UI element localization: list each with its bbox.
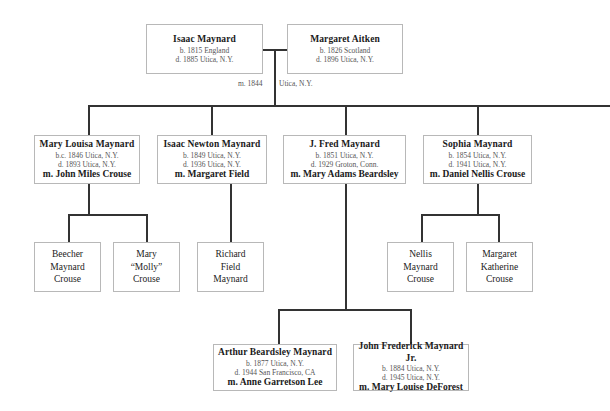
person-name: John Frederick Maynard Jr. bbox=[354, 341, 468, 364]
drop-line-molly bbox=[146, 214, 148, 242]
person-name: Mary “Molly” Crouse bbox=[131, 248, 163, 286]
person-mary-louisa-maynard: Mary Louisa Maynard b.c. 1846 Utica, N.Y… bbox=[34, 135, 140, 184]
death-info: d. 1945 Utica, N.Y. bbox=[382, 373, 440, 382]
person-name: Isaac Newton Maynard bbox=[164, 139, 261, 150]
person-name: Nellis Maynard Crouse bbox=[403, 248, 437, 286]
person-name: Arthur Beardsley Maynard bbox=[218, 347, 332, 358]
person-isaac-maynard: Isaac Maynard b. 1815 England d. 1885 Ut… bbox=[146, 24, 263, 74]
drop-line-sophia bbox=[477, 105, 479, 135]
drop-line-beecher bbox=[68, 214, 70, 242]
person-arthur-beardsley-maynard: Arthur Beardsley Maynard b. 1877 Utica, … bbox=[213, 344, 337, 391]
person-richard-field-maynard: Richard Field Maynard bbox=[197, 242, 264, 292]
drop-line-margaret-katherine bbox=[498, 214, 500, 242]
sibling-bar bbox=[88, 105, 610, 107]
person-name: Mary Louisa Maynard bbox=[40, 139, 135, 150]
descent-line-sophia bbox=[477, 184, 479, 215]
person-name: Beecher Maynard Crouse bbox=[50, 248, 84, 286]
person-name: Isaac Maynard bbox=[173, 34, 236, 45]
birth-info: b. 1849 Utica, N.Y. bbox=[183, 151, 241, 160]
root-descent-line bbox=[274, 49, 276, 106]
spouse-info: m. Margaret Field bbox=[175, 169, 249, 180]
person-isaac-newton-maynard: Isaac Newton Maynard b. 1849 Utica, N.Y.… bbox=[157, 135, 267, 184]
drop-line-isaac-newton bbox=[211, 105, 213, 135]
children-bar-sophia bbox=[421, 214, 499, 216]
death-info: d. 1893 Utica, N.Y. bbox=[58, 160, 116, 169]
drop-line-mary-louisa bbox=[88, 105, 90, 135]
death-info: d. 1936 Utica, N.Y. bbox=[183, 160, 241, 169]
person-name: Richard Field Maynard bbox=[213, 248, 247, 286]
death-info: d. 1941 Utica, N.Y. bbox=[449, 160, 507, 169]
spouse-info: m. Daniel Nellis Crouse bbox=[430, 169, 525, 180]
person-sophia-maynard: Sophia Maynard b. 1854 Utica, N.Y. d. 19… bbox=[423, 135, 532, 184]
marriage-year: m. 1844 bbox=[238, 79, 263, 88]
birth-info: b. 1854 Utica, N.Y. bbox=[449, 151, 507, 160]
spouse-info: m. Anne Garretson Lee bbox=[228, 377, 323, 388]
death-info: d. 1885 Utica, N.Y. bbox=[176, 55, 234, 64]
person-margaret-aitken: Margaret Aitken b. 1826 Scotland d. 1896… bbox=[287, 24, 403, 74]
person-margaret-katherine-crouse: Margaret Katherine Crouse bbox=[466, 242, 533, 292]
birth-info: b. 1884 Utica, N.Y. bbox=[382, 364, 440, 373]
person-beecher-maynard-crouse: Beecher Maynard Crouse bbox=[34, 242, 101, 292]
birth-info: b. 1815 England bbox=[180, 46, 229, 55]
person-mary-molly-crouse: Mary “Molly” Crouse bbox=[113, 242, 180, 292]
descent-line-mary-louisa bbox=[88, 184, 90, 215]
death-info: d. 1929 Groton, Conn. bbox=[311, 160, 379, 169]
death-info: d. 1944 San Francisco, CA bbox=[235, 368, 316, 377]
spouse-info: m. Mary Adams Beardsley bbox=[290, 169, 398, 180]
drop-line-arthur bbox=[278, 309, 280, 344]
marriage-place: Utica, N.Y. bbox=[279, 79, 313, 88]
children-bar-j-fred bbox=[278, 309, 411, 311]
person-john-frederick-maynard-jr: John Frederick Maynard Jr. b. 1884 Utica… bbox=[353, 344, 469, 391]
person-nellis-maynard-crouse: Nellis Maynard Crouse bbox=[387, 242, 454, 292]
person-name: Margaret Katherine Crouse bbox=[481, 248, 518, 286]
descent-line-j-fred bbox=[345, 184, 347, 310]
person-name: J. Fred Maynard bbox=[309, 139, 380, 150]
drop-line-j-fred bbox=[345, 105, 347, 135]
birth-info: b. 1877 Utica, N.Y. bbox=[246, 359, 304, 368]
birth-info: b. 1826 Scotland bbox=[320, 46, 371, 55]
birth-info: b.c. 1846 Utica, N.Y. bbox=[55, 151, 118, 160]
person-name: Sophia Maynard bbox=[443, 139, 513, 150]
children-bar-mary-louisa bbox=[68, 214, 147, 216]
descent-line-isaac-newton bbox=[230, 184, 232, 242]
person-j-fred-maynard: J. Fred Maynard b. 1851 Utica, N.Y. d. 1… bbox=[283, 135, 406, 184]
birth-info: b. 1851 Utica, N.Y. bbox=[316, 151, 374, 160]
drop-line-john-frederick bbox=[410, 309, 412, 344]
drop-line-nellis bbox=[421, 214, 423, 242]
person-name: Margaret Aitken bbox=[310, 34, 380, 45]
death-info: d. 1896 Utica, N.Y. bbox=[316, 55, 374, 64]
spouse-info: m. John Miles Crouse bbox=[43, 169, 132, 180]
spouse-info: m. Mary Louise DeForest bbox=[359, 382, 463, 393]
